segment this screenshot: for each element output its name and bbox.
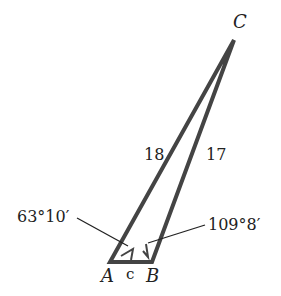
vertex-label-b: B <box>145 265 159 286</box>
leader-line-b <box>148 225 205 243</box>
side-label-bc: 17 <box>206 145 226 164</box>
side-label-ac: 18 <box>144 145 164 164</box>
angle-label-a: 63°10′ <box>17 207 70 226</box>
side-label-c: c <box>126 265 134 283</box>
triangle-diagram: C A B c 18 17 63°10′ 109°8′ <box>0 0 281 296</box>
vertex-label-c: C <box>233 11 247 32</box>
angle-label-b: 109°8′ <box>208 215 261 234</box>
angle-a-mark <box>121 249 133 260</box>
angle-b-mark <box>143 244 148 257</box>
vertex-label-a: A <box>99 265 114 286</box>
leader-line-a <box>77 218 128 246</box>
